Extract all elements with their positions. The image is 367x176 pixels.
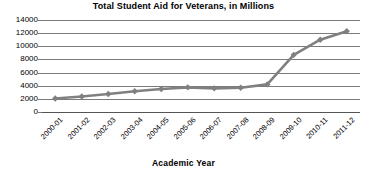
x-axis-tick-label: 2007-08	[225, 116, 250, 141]
x-axis-tick-label: 2010-11	[305, 116, 330, 141]
y-axis-tick-label: 4000	[0, 82, 38, 90]
y-axis-tick-label: 2000	[0, 95, 38, 103]
x-axis-labels: 2000-012001-022002-032003-042004-052005-…	[42, 112, 360, 158]
data-point-marker	[344, 28, 350, 34]
series-line-chart	[42, 20, 360, 112]
x-axis-tick-label: 2002-03	[93, 116, 118, 141]
data-point-marker	[132, 88, 138, 94]
data-point-marker	[238, 84, 244, 90]
y-axis-tick-label: 14000	[0, 16, 38, 24]
x-axis-tick-label: 2004-05	[146, 116, 171, 141]
chart-container: Total Student Aid for Veterans, in Milli…	[0, 0, 367, 176]
x-axis-tick-label: 2009-10	[278, 116, 303, 141]
data-point-marker	[79, 93, 85, 99]
x-axis-tick-label: 2006-07	[199, 116, 224, 141]
data-point-marker	[105, 91, 111, 97]
x-axis-tick-label: 2005-06	[172, 116, 197, 141]
y-axis-tick-label: 0	[0, 108, 38, 116]
y-axis-tick-label: 12000	[0, 29, 38, 37]
data-point-marker	[185, 84, 191, 90]
x-axis-tick-label: 2003-04	[119, 116, 144, 141]
y-axis-tick-label: 8000	[0, 55, 38, 63]
data-point-marker	[211, 85, 217, 91]
data-point-marker	[52, 95, 58, 101]
x-axis-tick-label: 2001-02	[66, 116, 91, 141]
x-axis-tick-label: 2011-12	[332, 116, 357, 141]
x-axis-tick-label: 2000-01	[40, 116, 65, 141]
y-axis-tick-label: 10000	[0, 42, 38, 50]
chart-title: Total Student Aid for Veterans, in Milli…	[0, 1, 367, 12]
series-line	[55, 31, 347, 98]
y-axis-tick-label: 6000	[0, 69, 38, 77]
y-axis-labels: 02000400060008000100001200014000	[0, 20, 38, 112]
data-point-marker	[158, 86, 164, 92]
x-axis-title: Academic Year	[0, 158, 367, 168]
x-axis-tick-label: 2008-09	[252, 116, 277, 141]
